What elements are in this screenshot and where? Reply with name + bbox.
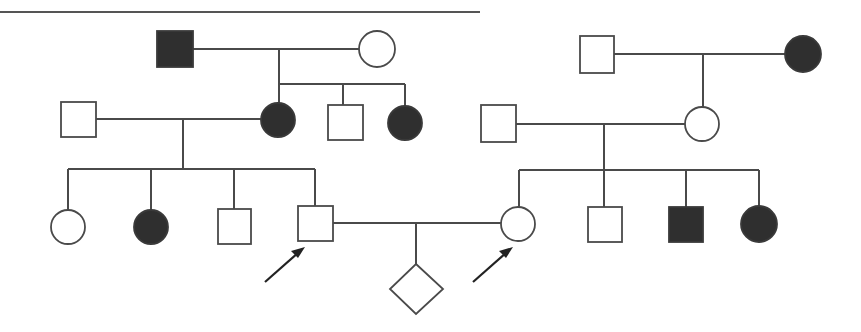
left-gen3-affected-female (134, 210, 168, 244)
left-gen1-affected-male (157, 31, 193, 67)
right-gen1-unaffected-male (580, 36, 614, 73)
right-gen3-affected-female (741, 206, 777, 242)
pedigree-diagram: pedigree (0, 0, 861, 332)
pedigree-canvas (0, 0, 861, 332)
right-gen3-affected-male (669, 207, 703, 242)
left-gen2-unaffected-male (328, 105, 363, 140)
right-proband-female (501, 207, 535, 241)
left-proband-male (298, 206, 333, 241)
proband-arrow-icon (265, 247, 305, 282)
left-gen2-unaffected-male-spouse (61, 102, 96, 137)
right-gen2-unaffected-male-spouse (481, 105, 516, 142)
offspring-unknown-sex-diamond (390, 264, 443, 314)
left-gen3-unaffected-male (218, 209, 251, 244)
right-gen2-unaffected-female (685, 107, 719, 141)
left-gen2-affected-female (388, 106, 422, 140)
proband-arrow-icon (473, 247, 513, 282)
left-gen1-unaffected-female (359, 31, 395, 67)
left-gen3-unaffected-female (51, 210, 85, 244)
right-gen3-unaffected-male (588, 207, 622, 242)
right-gen1-affected-female (785, 36, 821, 72)
left-gen2-affected-female (261, 103, 295, 137)
